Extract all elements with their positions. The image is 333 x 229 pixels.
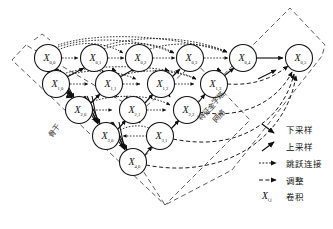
node-x03[interactable]: X0,3 xyxy=(177,45,204,72)
node-x22[interactable]: X2,2 xyxy=(174,97,201,124)
node-x12[interactable]: X1,2 xyxy=(148,71,175,98)
node-group: X0,0X0,1X0,2X0,3X0,4X0,5X1,0X1,1X1,2X1,3… xyxy=(35,45,313,176)
node-x05[interactable]: X0,5 xyxy=(286,45,313,72)
legend-label-upsample: 上采样 xyxy=(286,142,313,152)
legend-label-adjust: 调整 xyxy=(286,176,304,186)
node-x11[interactable]: X1,1 xyxy=(96,71,123,98)
legend-glyph-downsample xyxy=(262,124,274,133)
legend-label-downsample: 下采样 xyxy=(286,125,313,135)
node-x01[interactable]: X0,1 xyxy=(81,45,108,72)
diagram-canvas: X0,0X0,1X0,2X0,3X0,4X0,5X1,0X1,1X1,2X1,3… xyxy=(0,0,333,229)
node-x31[interactable]: X3,1 xyxy=(147,123,174,150)
legend-group: 下采样 上采样 跳跃连接 调整 Xi,j 卷积 xyxy=(259,124,322,203)
node-x13[interactable]: X1,3 xyxy=(201,71,228,98)
node-x00[interactable]: X0,0 xyxy=(35,45,62,72)
legend-label-convolution: 卷积 xyxy=(286,192,304,202)
annotation-backbone: 骨干 xyxy=(46,122,62,139)
dashed-region-outlines xyxy=(12,8,325,205)
legend-label-skip-connection: 跳跃连接 xyxy=(286,159,322,169)
node-x40[interactable]: X4,0 xyxy=(120,149,147,176)
top-left-tick xyxy=(34,34,50,40)
legend-glyph-convolution: Xi,j xyxy=(261,191,272,203)
node-x04[interactable]: X0,4 xyxy=(230,45,257,72)
network-diagram-svg: X0,0X0,1X0,2X0,3X0,4X0,5X1,0X1,1X1,2X1,3… xyxy=(0,0,333,229)
legend-glyph-upsample xyxy=(262,142,274,151)
node-x10[interactable]: X1,0 xyxy=(43,71,70,98)
node-x21[interactable]: X2,1 xyxy=(120,97,147,124)
node-x30[interactable]: X3,0 xyxy=(93,123,120,150)
node-x02[interactable]: X0,2 xyxy=(126,45,153,72)
node-x20[interactable]: X2,0 xyxy=(66,97,93,124)
